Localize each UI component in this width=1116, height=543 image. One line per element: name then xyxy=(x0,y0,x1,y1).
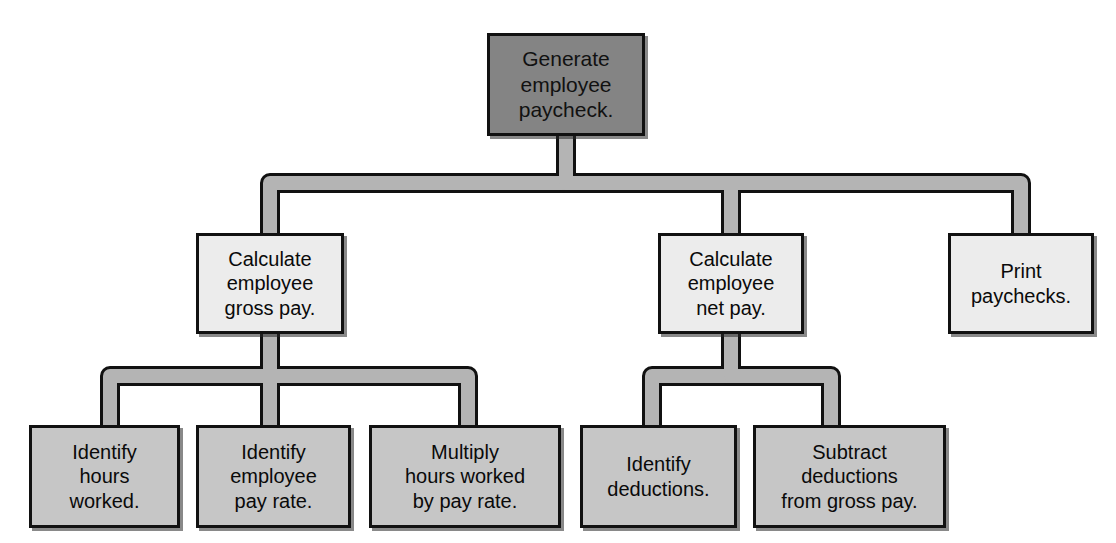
node-print-paychecks[interactable]: Print paychecks. xyxy=(948,233,1094,334)
node-label: Identify employee pay rate. xyxy=(224,440,323,513)
node-label: Multiply hours worked by pay rate. xyxy=(399,440,531,513)
node-subtract-deductions-from-gross-pay[interactable]: Subtract deductions from gross pay. xyxy=(753,425,946,528)
node-multiply-hours-worked-by-pay-rate[interactable]: Multiply hours worked by pay rate. xyxy=(369,425,561,528)
node-calculate-employee-gross-pay[interactable]: Calculate employee gross pay. xyxy=(196,233,344,334)
node-label: Identify deductions. xyxy=(601,452,715,501)
node-identify-deductions[interactable]: Identify deductions. xyxy=(580,425,737,528)
node-identify-employee-pay-rate[interactable]: Identify employee pay rate. xyxy=(196,425,351,528)
node-label: Identify hours worked. xyxy=(63,440,145,513)
node-label: Calculate employee net pay. xyxy=(682,247,781,320)
node-label: Subtract deductions from gross pay. xyxy=(775,440,923,513)
connector-net-to-leaves-fill xyxy=(652,330,831,432)
node-generate-employee-paycheck[interactable]: Generate employee paycheck. xyxy=(487,33,645,136)
node-label: Generate employee paycheck. xyxy=(513,46,620,123)
connector-gross-to-leaves-fill xyxy=(110,330,468,432)
structure-chart-canvas: Generate employee paycheck. Calculate em… xyxy=(0,0,1116,543)
node-label: Calculate employee gross pay. xyxy=(219,247,322,320)
node-label: Print paychecks. xyxy=(965,259,1077,308)
connector-root-to-level1-fill xyxy=(270,130,1021,240)
node-identify-hours-worked[interactable]: Identify hours worked. xyxy=(29,425,180,528)
node-calculate-employee-net-pay[interactable]: Calculate employee net pay. xyxy=(658,233,804,334)
